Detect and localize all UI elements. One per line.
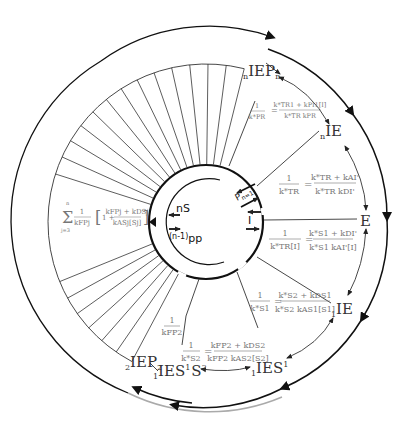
svg-text:[: [ (95, 208, 101, 227)
outer-arc-bottom-1 (173, 388, 283, 408)
svg-text:kFP2 + kDS2: kFP2 + kDS2 (211, 341, 266, 350)
formula-PR: 1 k*PR = k*TR1 + kPI1[I] k*TR kPR (249, 101, 327, 121)
label-I: I (248, 214, 251, 227)
state-E: E (360, 212, 371, 230)
svg-text:kFP2 kAS2[S2]: kFP2 kAS2[S2] (207, 354, 268, 363)
inner-circle (149, 165, 263, 279)
svg-text:k*TR kPR: k*TR kPR (284, 112, 317, 120)
svg-text:1: 1 (257, 291, 262, 300)
svg-text:k*TR kDI': k*TR kDI' (315, 187, 354, 196)
svg-text:1: 1 (282, 229, 287, 238)
state-nIEPn: nIEPn (243, 62, 280, 81)
fan-line (207, 64, 208, 164)
svg-text:k*TR1 + kPI1[I]: k*TR1 + kPI1[I] (274, 101, 327, 109)
outer-arc-bottom-2 (135, 388, 192, 403)
outer-arc-right-4 (283, 319, 362, 388)
label-nS: nS (176, 202, 190, 215)
svg-text:1: 1 (169, 316, 174, 325)
svg-text:k*S2: k*S2 (181, 354, 200, 363)
svg-text:k*S2 + kDS1: k*S2 + kDS1 (278, 291, 331, 300)
formula-S2: 1 k*S2 = kFP2 + kDS2 kFP2 kAS2[S2] (181, 341, 268, 363)
svg-text:k*S1 + kDI': k*S1 + kDI' (309, 229, 357, 238)
svg-text:1: 1 (286, 174, 291, 183)
fan-line (55, 174, 150, 204)
svg-text:j=3: j=3 (60, 227, 70, 234)
outer-arc-gray (128, 393, 282, 412)
svg-text:k*TR[I]: k*TR[I] (270, 242, 300, 251)
state-nIE: nIE (320, 122, 342, 141)
inner-labels: nS (n-1)pp I Pn=1 (169, 185, 255, 245)
svg-text:n: n (66, 200, 70, 206)
formula-TR: 1 k*TR = k*TR + kAI' k*TR kDI' (279, 173, 359, 196)
svg-text:k*S1 kAI'[I]: k*S1 kAI'[I] (309, 243, 356, 252)
outer-arc-top (101, 26, 272, 61)
label-pp: (n-1)pp (169, 232, 202, 245)
formula-TR-I: 1 k*TR[I] = k*S1 + kDI' k*S1 kAI'[I] (269, 229, 357, 252)
fan-line (154, 73, 187, 167)
svg-text:1: 1 (255, 102, 259, 110)
kinetic-cycle-diagram: nIEPn nIE E 1IE 1IES1 1IES1S2 2IEP2 nS (… (0, 0, 409, 435)
svg-text:k*TR: k*TR (279, 187, 300, 196)
fan-line (116, 270, 173, 352)
outer-arc-right-2 (352, 113, 387, 218)
svg-text:k*S1: k*S1 (250, 304, 269, 313)
inner-arc (166, 179, 224, 265)
formula-sum: Σ n j=3 1 kFPj [ 1 + kFPj + kDSj kASj[Sj… (60, 200, 149, 234)
svg-text:]: ] (143, 208, 149, 227)
svg-text:k*PR: k*PR (249, 113, 267, 121)
fan-line (68, 250, 156, 298)
state-2IEP2: 2IEP2 (125, 353, 162, 372)
fan-line (106, 99, 169, 177)
svg-text:kFP2: kFP2 (162, 328, 183, 337)
svg-text:Σ: Σ (62, 208, 73, 227)
formulas: 1 k*PR = k*TR1 + kPI1[I] k*TR kPR 1 k*TR… (60, 101, 359, 363)
fan-line (60, 244, 153, 282)
fan-line (81, 126, 160, 187)
svg-text:1: 1 (80, 208, 84, 216)
svg-text:kFPj: kFPj (74, 219, 90, 227)
fan-line (102, 266, 168, 341)
fan-line (77, 256, 158, 314)
svg-text:kASj[Sj]: kASj[Sj] (113, 219, 142, 227)
svg-text:k*S2 kAS1[S1]: k*S2 kAS1[S1] (275, 305, 335, 314)
fan-line (172, 68, 194, 166)
formula-FP2: 1 kFP2 (162, 316, 183, 337)
fan-line (93, 112, 165, 182)
fan-line (89, 261, 163, 328)
formula-S1: 1 k*S1 = k*S2 + kDS1 k*S2 kAS1[S1] (250, 291, 335, 314)
fan-line (190, 65, 200, 164)
svg-text:1: 1 (188, 341, 193, 350)
svg-text:k*TR + kAI': k*TR + kAI' (311, 173, 359, 182)
